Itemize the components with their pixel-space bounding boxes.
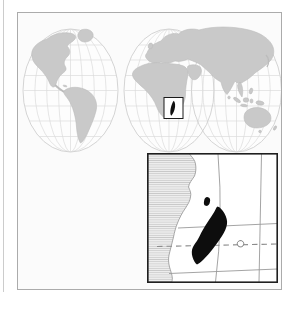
page <box>0 0 289 313</box>
tasmania <box>259 130 262 133</box>
map-panel <box>17 12 282 290</box>
borneo <box>243 98 249 102</box>
australia <box>244 108 271 128</box>
inset-map <box>147 153 278 283</box>
offshore-islet <box>237 241 244 247</box>
sri-lanka <box>228 96 230 99</box>
madagascar-highlight <box>164 98 183 119</box>
sulawesi <box>250 99 253 103</box>
greenland <box>78 29 93 42</box>
page-edge-line <box>3 0 4 292</box>
